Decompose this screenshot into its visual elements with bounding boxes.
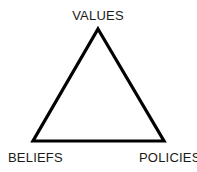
vertex-label-beliefs: BELIEFS bbox=[8, 151, 63, 164]
vertex-label-values: VALUES bbox=[0, 9, 197, 22]
vertex-label-policies: POLICIES bbox=[139, 151, 197, 164]
triangle-shape bbox=[0, 0, 197, 172]
triangle-diagram: VALUES BELIEFS POLICIES bbox=[0, 0, 197, 172]
triangle-outline bbox=[33, 29, 164, 141]
